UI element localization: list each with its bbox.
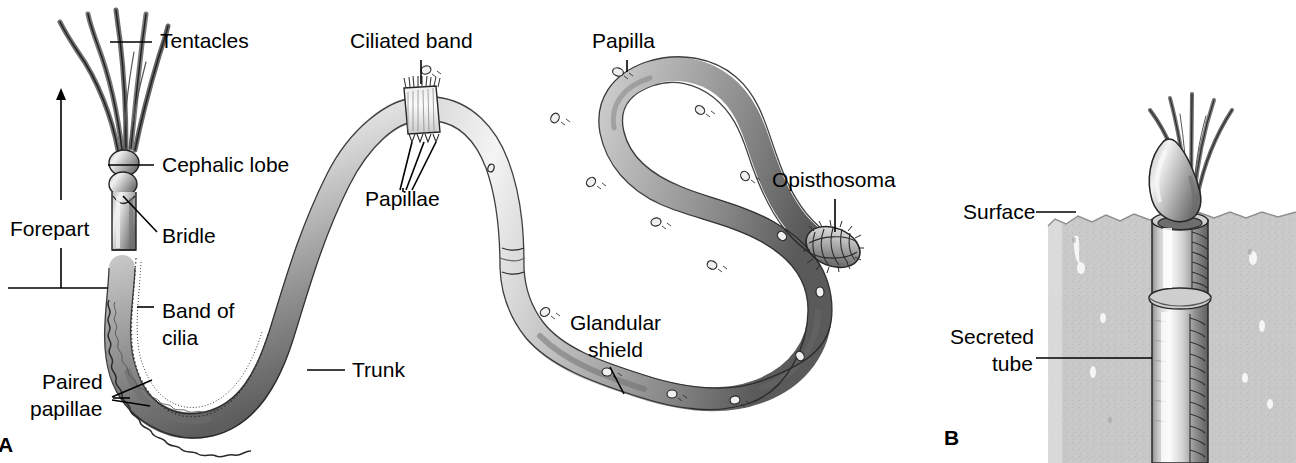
label-forepart: Forepart xyxy=(10,217,90,240)
papilla-marker xyxy=(667,390,677,398)
anatomy-illustration: Tentacles Cephalic lobe Bridle Forepart … xyxy=(0,0,1296,463)
label-paired-papillae-line2: papillae xyxy=(30,397,102,420)
label-band-of-cilia-line2: cilia xyxy=(162,326,198,349)
label-glandular-shield-line1: Glandular xyxy=(570,311,661,334)
figure-root: Tentacles Cephalic lobe Bridle Forepart … xyxy=(0,0,1296,463)
tube-highlight-upper xyxy=(1163,228,1172,288)
tube-highlight-lower xyxy=(1161,312,1170,462)
panel-label-a: A xyxy=(0,433,13,456)
label-tentacles: Tentacles xyxy=(160,29,249,52)
label-secreted-tube-line1: Secreted xyxy=(950,325,1034,348)
ciliated-band-collar xyxy=(404,86,440,134)
papilla-marker xyxy=(816,287,825,298)
secreted-tube xyxy=(1149,212,1211,463)
label-band-of-cilia-line1: Band of xyxy=(162,299,235,322)
label-bridle: Bridle xyxy=(162,224,216,247)
label-cephalic-lobe: Cephalic lobe xyxy=(162,153,289,176)
label-glandular-shield-line2: shield xyxy=(588,338,643,361)
label-papilla: Papilla xyxy=(592,29,655,52)
label-trunk: Trunk xyxy=(352,358,405,381)
label-opisthosoma: Opisthosoma xyxy=(772,168,896,191)
label-paired-papillae-line1: Paired xyxy=(42,370,103,393)
panel-label-b: B xyxy=(944,426,959,449)
ciliated-band xyxy=(404,76,440,142)
label-ciliated-band: Ciliated band xyxy=(350,29,473,52)
label-surface: Surface xyxy=(963,200,1035,223)
label-secreted-tube-line2: tube xyxy=(992,352,1033,375)
label-papillae: Papillae xyxy=(365,187,440,210)
